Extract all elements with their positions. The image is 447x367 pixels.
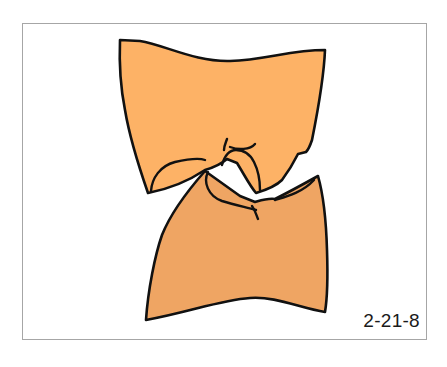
figure-label: 2-21-8 <box>363 311 420 330</box>
lower-tooth <box>146 171 327 320</box>
upper-tooth-body <box>120 40 325 193</box>
figure-canvas: 2-21-8 <box>0 0 447 367</box>
lower-tooth-body <box>146 171 327 320</box>
upper-tooth <box>120 40 325 193</box>
